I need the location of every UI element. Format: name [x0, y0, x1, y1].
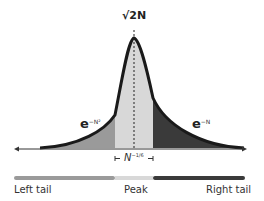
right-decay-label: e−N — [192, 116, 210, 131]
peak-label: Peak — [124, 184, 148, 195]
bar-left — [14, 176, 115, 180]
axis-left-arrow — [14, 147, 19, 152]
width-label: N−1/6 — [124, 152, 144, 163]
right-decay-base: e — [192, 116, 201, 131]
left-decay-base: e — [80, 116, 89, 131]
bar-right — [153, 176, 245, 180]
right-tail-label: Right tail — [206, 184, 251, 195]
left-tail-region — [40, 115, 115, 148]
axis-right-arrow — [242, 147, 247, 152]
left-tail-label: Left tail — [14, 184, 52, 195]
peak-value-label: √2N — [122, 9, 146, 22]
width-exp: −1/6 — [131, 152, 143, 158]
left-decay-exp: −N² — [89, 118, 101, 125]
right-decay-exp: −N — [201, 118, 211, 125]
distribution-diagram — [0, 0, 264, 201]
bar-peak — [115, 176, 153, 180]
left-decay-label: e−N² — [80, 116, 101, 131]
